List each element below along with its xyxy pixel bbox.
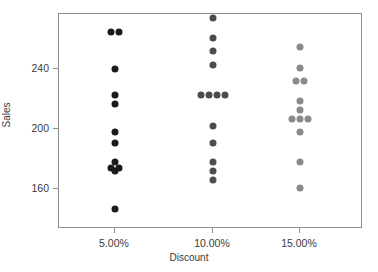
data-point — [297, 184, 304, 191]
data-point — [297, 106, 304, 113]
data-point — [222, 91, 229, 98]
plot-frame — [58, 13, 362, 228]
data-point — [297, 64, 304, 71]
data-point — [210, 139, 217, 146]
scatter-plot-figure: 160200240 Sales 5.00%10.00%15.00% Discou… — [0, 0, 378, 272]
data-point — [112, 129, 119, 136]
data-point — [210, 177, 217, 184]
data-point — [210, 15, 217, 22]
x-axis-tick-label: 5.00% — [99, 237, 129, 249]
plot-area — [59, 14, 361, 227]
data-point — [112, 168, 119, 175]
data-point — [297, 129, 304, 136]
x-axis-tick — [114, 228, 115, 233]
y-axis-tick-label: 240 — [31, 62, 49, 74]
x-axis-tick — [299, 228, 300, 233]
x-axis-tick-label: 10.00% — [194, 237, 230, 249]
data-point — [297, 97, 304, 104]
y-axis-tick — [53, 68, 58, 69]
y-axis-tick — [53, 188, 58, 189]
data-point — [210, 168, 217, 175]
x-axis-tick — [212, 228, 213, 233]
data-point — [210, 61, 217, 68]
data-point — [301, 78, 308, 85]
data-point — [210, 48, 217, 55]
data-point — [210, 34, 217, 41]
data-point — [293, 78, 300, 85]
data-point — [305, 115, 312, 122]
x-axis-tick-label: 15.00% — [281, 237, 317, 249]
data-point — [112, 100, 119, 107]
data-point — [210, 159, 217, 166]
data-point — [112, 139, 119, 146]
y-axis-label: Sales — [1, 102, 12, 127]
x-axis-label: Discount — [0, 252, 378, 263]
data-point — [112, 91, 119, 98]
y-axis-tick-label: 200 — [31, 122, 49, 134]
data-point — [108, 28, 115, 35]
data-point — [116, 28, 123, 35]
data-point — [112, 205, 119, 212]
data-point — [297, 159, 304, 166]
data-point — [289, 115, 296, 122]
y-axis-tick — [53, 128, 58, 129]
data-point — [214, 91, 221, 98]
data-point — [210, 123, 217, 130]
data-point — [297, 115, 304, 122]
data-point — [297, 43, 304, 50]
data-point — [112, 66, 119, 73]
y-axis-tick-label: 160 — [31, 182, 49, 194]
data-point — [198, 91, 205, 98]
data-point — [206, 91, 213, 98]
